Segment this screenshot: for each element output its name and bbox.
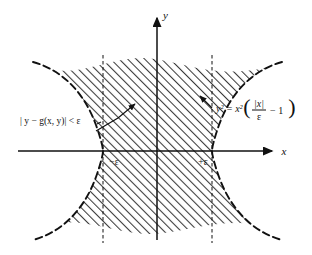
curve-equation-lhs: y² = x² [215, 103, 244, 114]
curve-equation-denominator: ε [257, 111, 261, 122]
paren-open: ( [243, 94, 250, 119]
inequality-label: | y − g(x, y)| < ε [20, 116, 80, 127]
y-axis-label: y [162, 9, 168, 21]
x-axis-label: x [281, 145, 287, 157]
tick-label-neg-epsilon: −ε [109, 157, 118, 167]
math-figure: x y −ε +ε | y − g(x, y)| < ε y² = x² ( |… [0, 0, 312, 255]
curve-equation-numerator: |x| [254, 98, 264, 109]
figure-canvas: x y −ε +ε | y − g(x, y)| < ε y² = x² ( |… [0, 0, 312, 255]
tick-label-pos-epsilon: +ε [198, 157, 207, 167]
paren-close: ) [288, 94, 295, 119]
curve-equation-tail: − 1 [270, 105, 283, 116]
